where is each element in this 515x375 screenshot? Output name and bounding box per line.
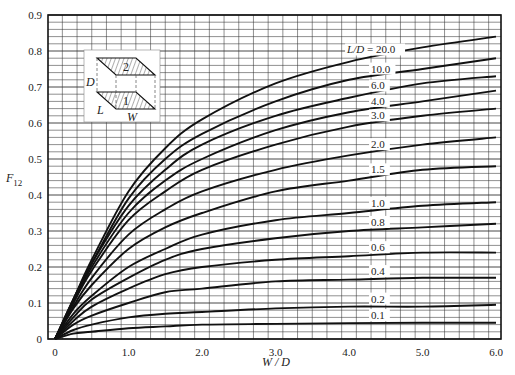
- curve-label: 0.4: [371, 265, 385, 277]
- curve-label: 3.0: [371, 109, 385, 121]
- curve-label: L/D = 20.0: [346, 43, 396, 55]
- x-tick-label: 6.0: [489, 346, 503, 358]
- inset-label-w: W: [127, 110, 138, 124]
- curve-label: 0.2: [371, 293, 385, 305]
- inset-label-d: D: [85, 75, 95, 89]
- curve-label: 0.1: [371, 309, 385, 321]
- y-tick-label: 0: [37, 333, 43, 345]
- y-tick-label: 0.7: [28, 81, 42, 93]
- y-tick-label: 0.5: [28, 153, 42, 165]
- y-tick-label: 0.3: [28, 225, 42, 237]
- inset-label-2: 2: [123, 60, 129, 74]
- curve-label: 1.5: [371, 163, 385, 175]
- y-tick-label: 0.8: [28, 45, 42, 57]
- x-axis-label: W / D: [262, 355, 290, 369]
- y-tick-label: 0.4: [28, 189, 42, 201]
- y-tick-label: 0.9: [28, 9, 42, 21]
- view-factor-chart: L/D = 20.010.06.04.03.02.01.51.00.80.60.…: [0, 0, 515, 375]
- y-axis-label-subscript: 12: [13, 178, 22, 188]
- x-tick-label: 5.0: [416, 346, 430, 358]
- inset-diagram: 2 1 D L W: [84, 50, 160, 124]
- curve-label: 10.0: [371, 63, 391, 75]
- x-tick-label: 4.0: [342, 346, 356, 358]
- x-tick-label: 1.0: [122, 346, 136, 358]
- x-tick-label: 0: [52, 346, 58, 358]
- y-tick-label: 0.1: [28, 297, 42, 309]
- curve-label: 2.0: [371, 138, 385, 150]
- y-tick-label: 0.6: [28, 117, 42, 129]
- curve-label: 0.8: [371, 216, 385, 228]
- curve-label: 4.0: [371, 95, 385, 107]
- y-tick-label: 0.2: [28, 261, 42, 273]
- x-tick-label: 2.0: [195, 346, 209, 358]
- curve-label: 6.0: [371, 79, 385, 91]
- inset-label-l: L: [96, 103, 104, 117]
- inset-label-1: 1: [123, 94, 129, 108]
- y-axis-ticks: 00.10.20.30.40.50.60.70.80.9: [28, 9, 42, 345]
- curve-label: 0.6: [371, 241, 385, 253]
- curve-label: 1.0: [371, 197, 385, 209]
- y-axis-label: F12: [5, 171, 22, 188]
